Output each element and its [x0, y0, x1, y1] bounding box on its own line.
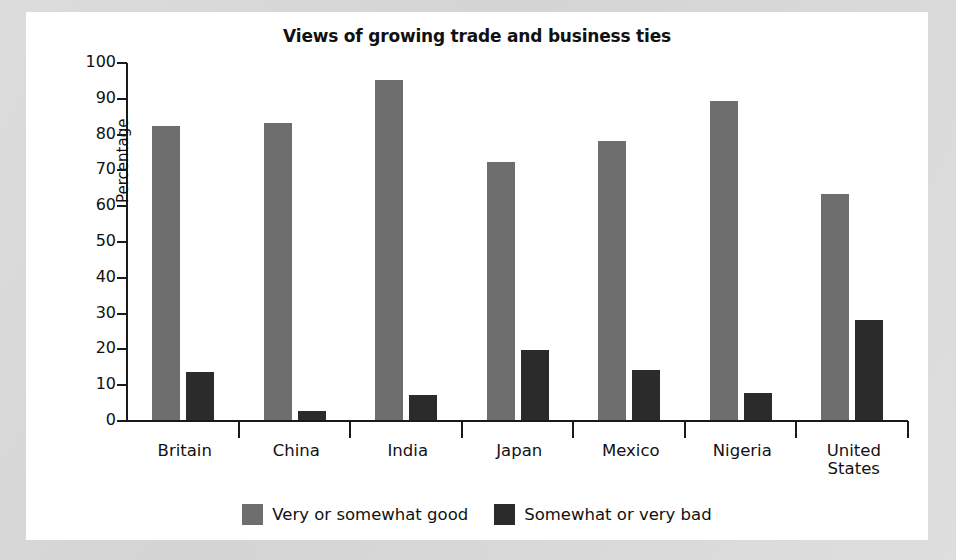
y-axis-tick-label: 80 — [76, 126, 116, 142]
y-axis-tick — [117, 62, 127, 64]
category-separator-tick — [684, 421, 686, 438]
y-axis-tick-labels: 1009080706050403020100 — [68, 63, 116, 422]
category-label-line: United — [798, 442, 910, 460]
category-label: Japan — [464, 442, 576, 460]
plot-area: Percentage 1009080706050403020100 Britai… — [126, 63, 928, 421]
y-axis-tick-label: 100 — [76, 54, 116, 70]
category-label: UnitedStates — [798, 442, 910, 478]
y-axis-tick — [117, 420, 127, 422]
y-axis-tick — [117, 384, 127, 386]
y-axis-tick-label: 90 — [76, 90, 116, 106]
y-axis-tick-label: 30 — [76, 305, 116, 321]
chart-title: Views of growing trade and business ties — [26, 26, 928, 46]
category-label-line: Nigeria — [687, 442, 799, 460]
legend-label: Very or somewhat good — [272, 505, 468, 524]
y-axis-tick — [117, 277, 127, 279]
category-label-line: Britain — [129, 442, 241, 460]
category-label: China — [241, 442, 353, 460]
bar-bad — [521, 350, 549, 420]
category-separator-tick — [907, 421, 909, 438]
category-label: Nigeria — [687, 442, 799, 460]
y-axis-tick-label: 50 — [76, 233, 116, 249]
legend-entry: Very or somewhat good — [242, 504, 468, 525]
category-label-line: China — [241, 442, 353, 460]
y-axis-tick — [117, 169, 127, 171]
legend-entry: Somewhat or very bad — [494, 504, 711, 525]
bar-good — [821, 194, 849, 420]
bar-good — [375, 80, 403, 420]
chart-legend: Very or somewhat goodSomewhat or very ba… — [26, 504, 928, 525]
bar-good — [152, 126, 180, 420]
bar-bad — [186, 372, 214, 420]
category-label-line: India — [352, 442, 464, 460]
y-axis-tick-label: 40 — [76, 269, 116, 285]
category-label-line: States — [798, 460, 910, 478]
category-separator-tick — [572, 421, 574, 438]
y-axis-tick — [117, 134, 127, 136]
category-label: Mexico — [575, 442, 687, 460]
y-axis-tick — [117, 313, 127, 315]
legend-swatch-good — [242, 504, 263, 525]
x-axis-line — [126, 420, 908, 422]
bar-bad — [855, 320, 883, 420]
category-label-line: Japan — [464, 442, 576, 460]
category-separator-tick — [795, 421, 797, 438]
category-separator-tick — [461, 421, 463, 438]
legend-swatch-bad — [494, 504, 515, 525]
category-separator-tick — [349, 421, 351, 438]
bar-good — [710, 101, 738, 420]
category-label-line: Mexico — [575, 442, 687, 460]
category-separator-tick — [238, 421, 240, 438]
page-background: Views of growing trade and business ties… — [0, 0, 956, 560]
y-axis-tick-label: 70 — [76, 161, 116, 177]
y-axis-tick — [117, 241, 127, 243]
bar-good — [598, 141, 626, 420]
legend-label: Somewhat or very bad — [524, 505, 711, 524]
y-axis-tick-label: 60 — [76, 197, 116, 213]
y-axis-tick — [117, 348, 127, 350]
y-axis-tick-label: 20 — [76, 340, 116, 356]
bar-bad — [744, 393, 772, 420]
y-axis-tick — [117, 98, 127, 100]
bar-good — [487, 162, 515, 420]
y-axis-tick-label: 0 — [76, 412, 116, 428]
bar-bad — [409, 395, 437, 420]
bar-bad — [632, 370, 660, 420]
y-axis-tick-label: 10 — [76, 376, 116, 392]
chart-panel: Views of growing trade and business ties… — [26, 12, 928, 540]
category-label: India — [352, 442, 464, 460]
y-axis-title: Percentage — [114, 119, 132, 203]
bar-good — [264, 123, 292, 420]
category-label: Britain — [129, 442, 241, 460]
bar-bad — [298, 411, 326, 420]
y-axis-tick — [117, 205, 127, 207]
